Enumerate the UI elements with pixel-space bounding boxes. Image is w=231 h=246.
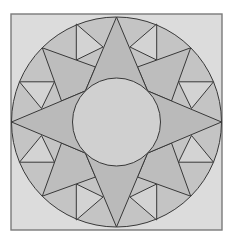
center-circle (73, 78, 161, 166)
compass-quilt-diagram (0, 0, 231, 246)
quilt-block-svg (0, 0, 231, 246)
